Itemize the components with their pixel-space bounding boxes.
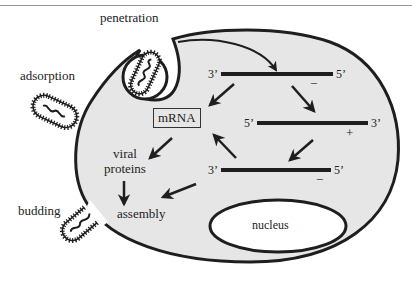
label-nucleus: nucleus — [252, 219, 289, 231]
label-budding: budding — [18, 204, 61, 217]
adsorption-virus-icon — [29, 92, 80, 131]
label-proteins: proteins — [98, 162, 152, 175]
strand-2-sense: + — [346, 126, 353, 139]
strand-2-left-end: 5’ — [244, 117, 254, 129]
strand-1-right-end: 5’ — [336, 68, 346, 80]
strand-3-right-end: 5’ — [334, 164, 344, 176]
label-adsorption: adsorption — [20, 69, 75, 82]
strand-1-left-end: 3’ — [208, 68, 218, 80]
diagram-canvas — [0, 0, 412, 292]
mrna-box: mRNA — [153, 108, 201, 128]
label-viral: viral — [100, 147, 150, 160]
strand-1-sense: − — [310, 77, 317, 90]
label-penetration: penetration — [100, 11, 158, 24]
label-assembly: assembly — [117, 207, 165, 220]
strand-3-left-end: 3’ — [208, 164, 218, 176]
strand-2-right-end: 3’ — [371, 117, 381, 129]
strand-3-sense: − — [316, 173, 323, 186]
